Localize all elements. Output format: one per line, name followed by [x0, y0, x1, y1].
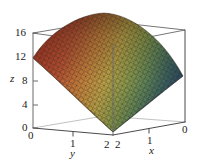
z-tick-label-16: 16: [15, 27, 26, 38]
z-axis-spine: [33, 33, 38, 128]
z-tick-label-12: 12: [15, 51, 26, 62]
y-axis-label: y: [70, 148, 75, 159]
z-tick-label-0: 0: [22, 122, 28, 133]
surface-plot-figure: 16 12 8 4 0 z 0 1 2 y 2 1 0 x: [0, 0, 208, 163]
z-tick-label-8: 8: [22, 75, 28, 86]
z-tick-label-4: 4: [22, 99, 28, 110]
x-tick-label-2: 2: [115, 139, 121, 150]
x-tick-label-0: 0: [182, 124, 188, 135]
y-tick-label-2: 2: [104, 139, 110, 150]
x-axis-label: x: [149, 145, 154, 156]
z-axis-label: z: [10, 73, 14, 84]
y-tick-label-0: 0: [28, 130, 34, 141]
